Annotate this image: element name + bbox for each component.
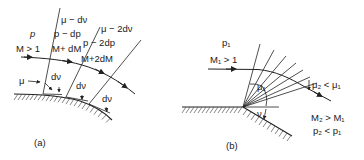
mu-pointer <box>28 81 40 82</box>
mach-wave-3 <box>89 40 141 104</box>
label-mu2-lt-mu1: μ₂ < μ₁ <box>312 79 341 90</box>
downstream-wall <box>243 107 292 136</box>
tangent-3 <box>89 104 110 113</box>
panel-b: p₁ M₁ > 1 μ₁ μ₂ < μ₁ M₂ > M₁ p₂ < p₁ ν (… <box>182 37 345 151</box>
flow-arrow-4 <box>118 82 127 89</box>
tangent-1 <box>43 94 62 95</box>
caption-b: (b) <box>226 140 238 151</box>
label-mu-minus-dnu: μ − dν <box>61 14 88 25</box>
label-p-minus-dp: p − dp <box>54 28 81 39</box>
flow-arrow-b2 <box>314 92 322 97</box>
convex-wall <box>14 94 112 120</box>
label-p2-lt-p1: p₂ < p₁ <box>313 125 341 136</box>
mu-arc <box>45 83 52 90</box>
caption-a: (a) <box>34 137 46 148</box>
label-mu-minus-2dnu: μ − 2dν <box>101 23 133 34</box>
prandtl-meyer-figure: μ − dν p p − dp μ − 2dν M > 1 M+ dM p − … <box>0 0 364 160</box>
label-m2-gt-m1: M₂ > M₁ <box>311 112 345 123</box>
flow-arrow-3 <box>95 69 104 74</box>
wall-hatching-b <box>182 107 291 141</box>
label-mu1: μ₁ <box>257 81 266 92</box>
dnu-arc-3 <box>106 107 107 112</box>
label-dnu-3: dν <box>102 93 112 104</box>
label-p-minus-2dp: p − 2dp <box>83 37 115 48</box>
label-dnu-2: dν <box>76 80 86 91</box>
label-p1: p₁ <box>222 37 231 48</box>
panel-a: μ − dν p p − dp μ − 2dν M > 1 M+ dM p − … <box>14 8 141 148</box>
label-m-plus-2dm: M+2dM <box>81 53 113 64</box>
label-p: p <box>29 28 35 39</box>
label-m1-gt-1: M₁ > 1 <box>210 54 237 65</box>
label-m-plus-dm: M+ dM <box>52 43 81 54</box>
expansion-fan <box>243 44 317 107</box>
label-dnu-1: dν <box>51 71 61 82</box>
nu-arc <box>264 109 266 119</box>
label-mu: μ <box>19 75 24 86</box>
label-nu: ν <box>257 108 262 119</box>
label-m-gt-1: M > 1 <box>16 43 40 54</box>
